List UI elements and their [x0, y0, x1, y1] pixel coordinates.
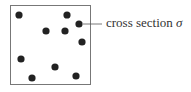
target-box — [11, 6, 91, 85]
particle-dot — [75, 20, 82, 27]
particle-dot — [42, 27, 49, 34]
scatter-particles — [15, 11, 85, 81]
particle-dot — [28, 74, 35, 81]
particle-dot — [72, 72, 79, 79]
particle-dot — [78, 38, 85, 45]
particle-dot — [17, 55, 24, 62]
particle-dot — [15, 11, 22, 18]
particle-dot — [63, 11, 70, 18]
particle-dot — [51, 63, 58, 70]
particle-dot — [61, 27, 68, 34]
cross-section-label: cross section σ — [106, 15, 182, 31]
particle-diagram — [0, 0, 191, 92]
